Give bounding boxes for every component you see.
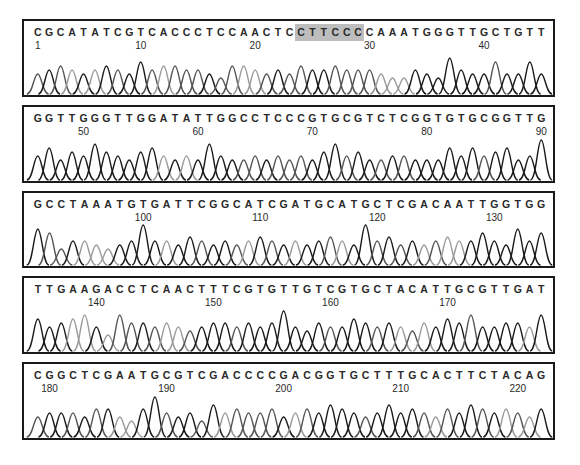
- base-call: C: [150, 283, 160, 295]
- base-call: A: [443, 198, 453, 210]
- base-call: T: [513, 112, 523, 124]
- base-call: C: [232, 198, 242, 210]
- base-call: T: [193, 112, 203, 124]
- base-call: T: [197, 283, 207, 295]
- base-call: G: [502, 112, 512, 124]
- base-call: T: [365, 112, 375, 124]
- base-call: T: [456, 112, 466, 124]
- base-call: G: [267, 283, 277, 295]
- base-call: G: [536, 112, 546, 124]
- base-call: C: [396, 198, 406, 210]
- base-call: T: [124, 112, 134, 124]
- base-call: C: [91, 369, 101, 381]
- base-call: G: [478, 283, 488, 295]
- base-call: G: [445, 26, 455, 38]
- base-call: C: [33, 26, 43, 38]
- base-call: T: [138, 198, 148, 210]
- base-call: C: [443, 369, 453, 381]
- base-call: G: [208, 198, 218, 210]
- base-call: C: [513, 369, 523, 381]
- base-call: G: [103, 369, 113, 381]
- base-call: C: [162, 369, 172, 381]
- base-call: T: [185, 369, 195, 381]
- base-call: T: [314, 283, 324, 295]
- base-call: T: [204, 112, 214, 124]
- base-call: G: [410, 112, 420, 124]
- base-call: G: [45, 369, 55, 381]
- base-call: G: [479, 26, 489, 38]
- base-call: T: [468, 26, 478, 38]
- base-call: T: [384, 283, 394, 295]
- base-call: G: [422, 26, 432, 38]
- base-call: G: [173, 369, 183, 381]
- base-call: T: [307, 26, 317, 38]
- base-call: T: [290, 283, 300, 295]
- base-call: C: [296, 26, 306, 38]
- base-call: A: [68, 283, 78, 295]
- base-call: G: [79, 112, 89, 124]
- base-call: T: [208, 283, 218, 295]
- base-call: C: [255, 369, 265, 381]
- base-call: T: [262, 112, 272, 124]
- base-call: C: [267, 198, 277, 210]
- base-call: A: [115, 369, 125, 381]
- base-call: C: [239, 112, 249, 124]
- base-call: G: [524, 198, 534, 210]
- base-call: T: [433, 112, 443, 124]
- base-call: C: [250, 112, 260, 124]
- base-call: T: [501, 283, 511, 295]
- base-call: G: [536, 198, 546, 210]
- base-call: A: [244, 198, 254, 210]
- base-call: G: [361, 198, 371, 210]
- base-call: T: [536, 26, 546, 38]
- base-call: T: [279, 283, 289, 295]
- base-call: G: [361, 283, 371, 295]
- base-call: T: [138, 369, 148, 381]
- base-call: G: [124, 26, 134, 38]
- base-call-sequence: CGCATATCGTCACCCTCCAACTCCTTCCCCAAATGGGTTG…: [32, 26, 547, 40]
- base-call: G: [491, 112, 501, 124]
- base-call: C: [431, 198, 441, 210]
- base-call: A: [419, 198, 429, 210]
- base-call: C: [296, 112, 306, 124]
- base-call: G: [90, 112, 100, 124]
- base-call: T: [255, 283, 265, 295]
- base-call: A: [80, 198, 90, 210]
- base-call: A: [80, 283, 90, 295]
- base-call: T: [337, 369, 347, 381]
- base-call: T: [115, 198, 125, 210]
- base-call: C: [244, 369, 254, 381]
- base-call: G: [454, 283, 464, 295]
- base-call: A: [159, 26, 169, 38]
- base-call: C: [182, 26, 192, 38]
- base-call: C: [170, 26, 180, 38]
- base-call: C: [56, 198, 66, 210]
- base-call: C: [399, 112, 409, 124]
- base-call: G: [33, 112, 43, 124]
- base-call: C: [68, 369, 78, 381]
- base-call: G: [279, 198, 289, 210]
- base-call: G: [307, 112, 317, 124]
- base-call: T: [138, 283, 148, 295]
- base-call: T: [443, 283, 453, 295]
- base-call: C: [342, 26, 352, 38]
- base-call: A: [239, 26, 249, 38]
- base-call: G: [513, 26, 523, 38]
- base-call-sequence: TTGAAGACCTCAACTTTCGTGTTGTCGTGCTACATTGCGT…: [32, 283, 547, 297]
- base-call: G: [433, 26, 443, 38]
- base-call: C: [466, 283, 476, 295]
- base-call: C: [407, 283, 417, 295]
- base-call: T: [173, 198, 183, 210]
- base-call: A: [159, 112, 169, 124]
- base-call: C: [56, 26, 66, 38]
- base-call: A: [250, 26, 260, 38]
- base-call: C: [479, 112, 489, 124]
- base-call: T: [396, 369, 406, 381]
- base-call: T: [136, 26, 146, 38]
- base-call: G: [468, 112, 478, 124]
- base-call: C: [372, 283, 382, 295]
- base-call: T: [454, 369, 464, 381]
- base-call: A: [103, 283, 113, 295]
- base-call: G: [220, 198, 230, 210]
- base-call: T: [204, 26, 214, 38]
